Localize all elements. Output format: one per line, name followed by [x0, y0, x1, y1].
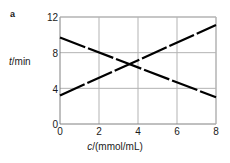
chart-figure: a t/min c/(mmol/mL) 12 8 4 0 0 2 4 6 8	[0, 0, 230, 163]
gridlines	[60, 17, 216, 124]
plot-area	[0, 0, 230, 163]
